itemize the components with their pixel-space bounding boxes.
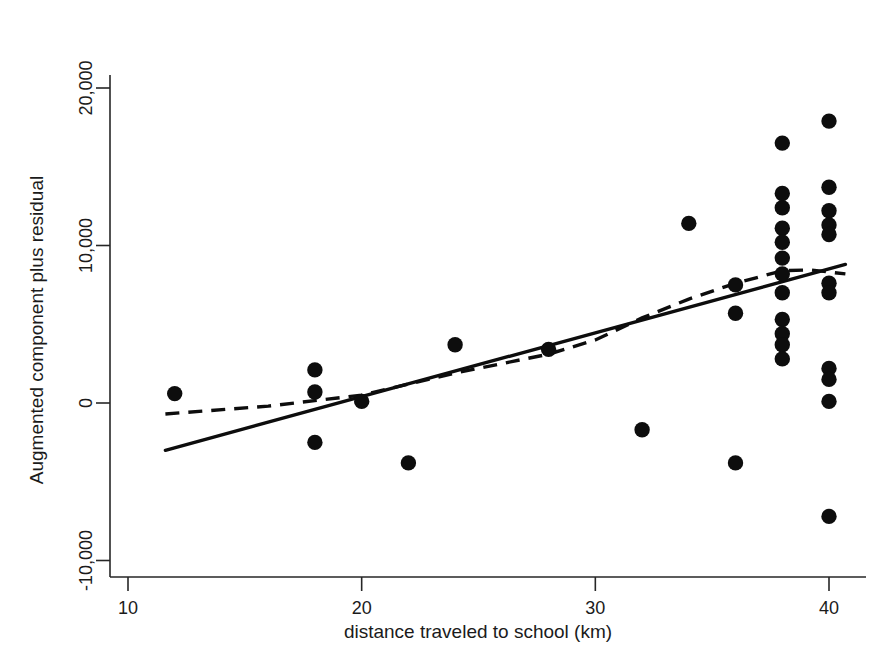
data-point bbox=[307, 435, 322, 450]
data-point bbox=[821, 394, 836, 409]
data-point bbox=[775, 186, 790, 201]
fit-lines-group bbox=[165, 264, 845, 450]
data-point bbox=[821, 509, 836, 524]
data-point bbox=[821, 203, 836, 218]
data-point bbox=[167, 386, 182, 401]
data-point bbox=[821, 227, 836, 242]
chart-canvas: -10,000010,00020,000 Augmented component… bbox=[0, 0, 883, 672]
data-point bbox=[775, 337, 790, 352]
x-axis-tick-labels: 10203040 bbox=[118, 598, 839, 618]
x-axis-ticks bbox=[128, 577, 829, 591]
data-point bbox=[728, 455, 743, 470]
data-point bbox=[728, 306, 743, 321]
data-point bbox=[681, 216, 696, 231]
scatter-points-group bbox=[167, 113, 837, 524]
data-point bbox=[775, 266, 790, 281]
acpr-scatter-figure: -10,000010,00020,000 Augmented component… bbox=[0, 0, 883, 672]
data-point bbox=[821, 372, 836, 387]
data-point bbox=[775, 250, 790, 265]
x-axis-title: distance traveled to school (km) bbox=[344, 621, 612, 642]
data-point bbox=[775, 351, 790, 366]
y-tick-label: -10,000 bbox=[76, 530, 96, 591]
data-point bbox=[728, 277, 743, 292]
y-axis-ticks bbox=[96, 88, 110, 561]
data-point bbox=[447, 337, 462, 352]
data-point bbox=[821, 180, 836, 195]
y-tick-label: 10,000 bbox=[76, 218, 96, 273]
data-point bbox=[634, 422, 649, 437]
data-point bbox=[775, 135, 790, 150]
data-point bbox=[775, 235, 790, 250]
x-tick-label: 10 bbox=[118, 598, 138, 618]
y-axis-group: -10,000010,00020,000 Augmented component… bbox=[26, 60, 110, 591]
data-point bbox=[821, 285, 836, 300]
x-axis-group: 10203040 distance traveled to school (km… bbox=[110, 577, 866, 642]
data-point bbox=[307, 362, 322, 377]
x-tick-label: 20 bbox=[352, 598, 372, 618]
data-point bbox=[821, 113, 836, 128]
data-point bbox=[775, 200, 790, 215]
data-point bbox=[775, 221, 790, 236]
data-point bbox=[775, 285, 790, 300]
fit-line-linear-fit bbox=[165, 264, 845, 450]
x-tick-label: 40 bbox=[819, 598, 839, 618]
x-tick-label: 30 bbox=[585, 598, 605, 618]
data-point bbox=[307, 384, 322, 399]
data-point bbox=[354, 394, 369, 409]
y-tick-label: 0 bbox=[76, 398, 96, 408]
y-tick-label: 20,000 bbox=[76, 60, 96, 115]
data-point bbox=[775, 312, 790, 327]
y-axis-tick-labels: -10,000010,00020,000 bbox=[76, 60, 96, 591]
data-point bbox=[541, 342, 556, 357]
y-axis-title: Augmented component plus residual bbox=[26, 176, 47, 484]
data-point bbox=[401, 455, 416, 470]
